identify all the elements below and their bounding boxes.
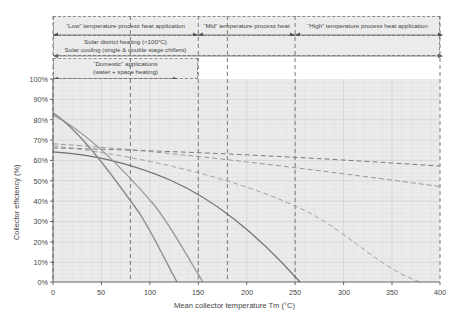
y-tick-90: 90% [22, 95, 48, 104]
y-tick-100: 100% [22, 75, 48, 84]
y-tick-80: 80% [22, 116, 48, 125]
y-tick-50: 50% [22, 177, 48, 186]
x-tick-300: 300 [330, 288, 358, 297]
y-axis-title: Collector efficiency (%) [12, 165, 21, 240]
y-tick-10: 10% [22, 258, 48, 267]
chart-root: “Low” temperature process heat applicati… [0, 0, 459, 324]
x-tick-0: 0 [39, 288, 67, 297]
x-tick-350: 350 [378, 288, 406, 297]
y-tick-20: 20% [22, 238, 48, 247]
x-axis-title: Mean collector temperature Tm (°C) [174, 301, 295, 310]
x-tick-100: 100 [136, 288, 164, 297]
x-tick-200: 200 [233, 288, 261, 297]
x-tick-250: 250 [281, 288, 309, 297]
y-tick-30: 30% [22, 217, 48, 226]
x-tick-50: 50 [87, 288, 115, 297]
x-tick-150: 150 [184, 288, 212, 297]
y-tick-0: 0% [22, 278, 48, 287]
y-tick-40: 40% [22, 197, 48, 206]
y-tick-70: 70% [22, 136, 48, 145]
y-tick-60: 60% [22, 156, 48, 165]
plot-area [0, 0, 459, 324]
x-tick-400: 400 [426, 288, 454, 297]
